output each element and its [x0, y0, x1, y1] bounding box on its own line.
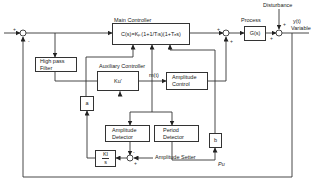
- period-signal-label: Pu: [218, 162, 225, 168]
- amplitude-detector-line2: Detector: [112, 134, 133, 141]
- process-formula: G(s): [250, 30, 261, 37]
- process-block: G(s): [244, 26, 266, 41]
- sum-junction-3: [276, 30, 282, 36]
- aux-output-label: m(t): [149, 73, 159, 79]
- auxiliary-controller-block: Ku': [97, 71, 139, 91]
- sign-sum1-input: +: [13, 27, 16, 32]
- amplitude-control-line1: Amplitude: [172, 74, 196, 81]
- process-title: Process: [241, 18, 261, 24]
- main-controller-block: C(s)=Kₚ(1+1/Tᵢs)(1+Tₑs): [112, 23, 190, 45]
- sum-junction-4: [127, 155, 133, 161]
- sum-junction-1: [20, 30, 26, 36]
- period-detector-block: Period Detector: [154, 125, 199, 142]
- auxiliary-controller-title: Auxiliary Controller: [99, 64, 145, 70]
- main-controller-formula: C(s)=Kₚ(1+1/Tᵢs)(1+Tₑs): [121, 31, 181, 38]
- sign-sum4-detector: -: [133, 150, 135, 155]
- b-gain-block: b: [209, 133, 222, 148]
- disturbance-label: Disturbance: [263, 3, 292, 9]
- amplitude-control-line2: Control: [172, 81, 190, 88]
- integrator-numerator: KI: [102, 151, 109, 159]
- sum-junction-2: [223, 30, 229, 36]
- amplitude-control-block: Amplitude Control: [166, 72, 208, 90]
- integrator-denominator: s: [104, 159, 107, 166]
- sign-sum2-input: +: [217, 27, 220, 32]
- integrator-block: KI s: [95, 150, 116, 167]
- output-signal-label: y(t): [293, 19, 301, 25]
- high-pass-filter-line2: Filter: [40, 65, 52, 72]
- high-pass-filter-line1: High pass: [40, 58, 64, 65]
- amplitude-detector-line1: Amplitude: [112, 127, 136, 134]
- period-detector-line1: Period: [163, 127, 179, 134]
- sign-sum3-disturbance: +: [283, 22, 286, 27]
- period-detector-line2: Detector: [163, 134, 184, 141]
- auxiliary-controller-formula: Ku': [114, 78, 122, 85]
- high-pass-filter-block: High pass Filter: [35, 57, 77, 72]
- alpha-gain-block: a: [80, 96, 94, 111]
- b-symbol: b: [214, 137, 217, 144]
- sign-sum4-setter: +: [134, 161, 137, 166]
- sign-sum2-aux: +: [230, 39, 233, 44]
- output-variable-label: Variable: [291, 26, 311, 32]
- amplitude-detector-block: Amplitude Detector: [105, 125, 150, 142]
- sign-sum3-input: +: [270, 36, 273, 41]
- alpha-symbol: a: [85, 100, 88, 107]
- amplitude-setter-label: Amplitude Setter: [155, 155, 196, 161]
- sign-sum1-feedback: -: [28, 39, 30, 44]
